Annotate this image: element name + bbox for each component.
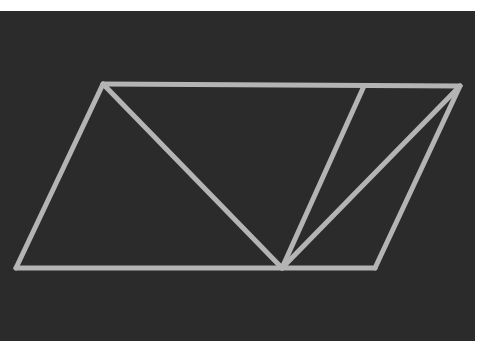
segment-top-inner-to-bottom-mid [282,86,364,268]
parallelogram-diagram [0,0,488,350]
parallelogram-left-edge [16,84,103,268]
diagonal-top-left-to-bottom-mid [103,84,282,268]
segment-top-right-to-bottom-mid [282,86,460,268]
parallelogram-top-edge [103,84,460,86]
parallelogram-right-edge [375,86,460,268]
